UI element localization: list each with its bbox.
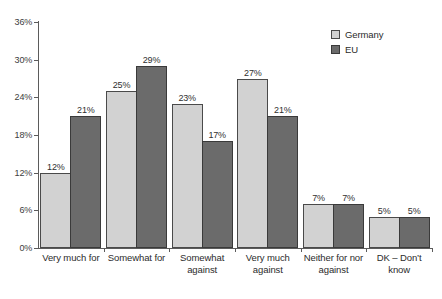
bar-group: 25%29% — [104, 22, 170, 248]
legend-swatch-eu — [331, 45, 340, 54]
bar-germany[interactable]: 5% — [369, 217, 400, 248]
bar-eu[interactable]: 29% — [136, 66, 167, 248]
bar-value-label: 12% — [47, 162, 64, 172]
x-axis-category-label: Somewhat for — [104, 252, 170, 264]
bar-value-label: 27% — [244, 68, 261, 78]
x-axis-end-tick — [432, 248, 433, 252]
bar-germany[interactable]: 12% — [40, 173, 71, 248]
y-axis-tick-label: 36% — [15, 17, 38, 27]
bar-group: 12%21% — [38, 22, 104, 248]
bar-value-label: 21% — [77, 105, 94, 115]
legend-swatch-germany — [331, 30, 340, 39]
y-axis-tick-label: 6% — [19, 205, 38, 215]
x-axis-category-label: Very much for — [38, 252, 104, 264]
bar-eu[interactable]: 7% — [333, 204, 364, 248]
bar-value-label: 7% — [342, 193, 355, 203]
y-axis-tick-label: 12% — [15, 168, 38, 178]
legend-item[interactable]: EU — [331, 43, 383, 55]
bar-value-label: 5% — [408, 206, 421, 216]
bar-chart: 0%6%12%18%24%30%36% 12%21%25%29%23%17%27… — [0, 0, 442, 299]
y-axis-tick-label: 30% — [15, 55, 38, 65]
legend-label: Germany — [345, 29, 383, 40]
y-axis-tick-label: 0% — [19, 243, 38, 253]
bar-value-label: 23% — [178, 93, 195, 103]
x-axis-category-label: Somewhat against — [169, 252, 235, 276]
x-axis-category-label: DK – Don’t know — [366, 252, 432, 276]
bar-value-label: 7% — [312, 193, 325, 203]
bar-value-label: 29% — [143, 55, 160, 65]
bar-value-label: 21% — [274, 105, 291, 115]
bar-group: 23%17% — [169, 22, 235, 248]
bar-eu[interactable]: 5% — [399, 217, 430, 248]
legend-item[interactable]: Germany — [331, 28, 383, 40]
y-axis-tick-label: 18% — [15, 130, 38, 140]
bar-value-label: 17% — [208, 130, 225, 140]
bar-germany[interactable]: 7% — [303, 204, 334, 248]
chart-legend: GermanyEU — [331, 28, 383, 58]
bar-germany[interactable]: 23% — [172, 104, 203, 248]
x-axis-category-label: Very much against — [235, 252, 301, 276]
legend-label: EU — [345, 44, 358, 55]
bar-eu[interactable]: 21% — [70, 116, 101, 248]
bar-germany[interactable]: 25% — [106, 91, 137, 248]
x-axis-category-label: Neither for nor against — [301, 252, 367, 276]
y-axis-tick-label: 24% — [15, 92, 38, 102]
bar-group: 27%21% — [235, 22, 301, 248]
bar-eu[interactable]: 21% — [267, 116, 298, 248]
bar-value-label: 25% — [113, 80, 130, 90]
bar-germany[interactable]: 27% — [237, 79, 268, 249]
bar-value-label: 5% — [378, 206, 391, 216]
bar-eu[interactable]: 17% — [202, 141, 233, 248]
